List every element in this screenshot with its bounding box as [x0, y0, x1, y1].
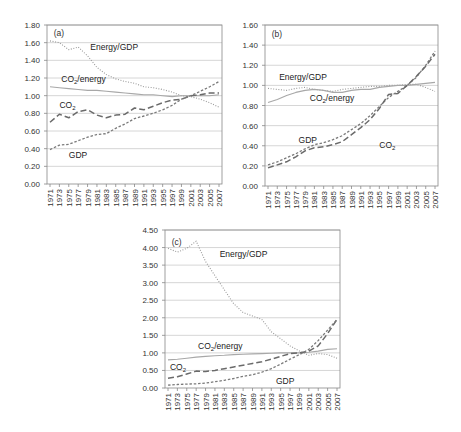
x-tick-label: 1981: [310, 190, 319, 208]
y-tick-label: 0.00: [142, 384, 158, 393]
y-tick-label: 0.20: [242, 162, 258, 171]
co2-energy-label: CO2/energy: [310, 93, 355, 104]
x-tick-label: 2003: [314, 392, 323, 410]
series-annotations: (c)Energy/GDPCO2/energyCO2GDP: [170, 237, 295, 386]
x-tick-label: 1977: [192, 392, 201, 410]
y-tick-label: 1.60: [24, 39, 40, 48]
x-tick-label: 1999: [295, 392, 304, 410]
x-tick-label: 1989: [131, 188, 140, 206]
gdp-line: [50, 82, 219, 150]
y-tick-label: 2.50: [142, 296, 158, 305]
x-tick-label: 1973: [273, 190, 282, 208]
gdp-label: GDP: [69, 150, 88, 160]
y-tick-label: 2.00: [142, 314, 158, 323]
x-tick-label: 1987: [121, 188, 130, 206]
x-tick-label: 1995: [159, 188, 168, 206]
x-tick-label: 2007: [333, 392, 342, 410]
x-tick-label: 1971: [164, 392, 173, 410]
x-tick-label: 1983: [320, 190, 329, 208]
x-tick-label: 1971: [264, 190, 273, 208]
chart-panel-a: 0.000.200.400.600.801.001.201.401.601.80…: [24, 21, 224, 207]
x-tick-label: 1995: [375, 190, 384, 208]
x-tick-label: 1971: [46, 188, 55, 206]
x-tick-label: 1987: [239, 392, 248, 410]
x-axis: 1971197319751977197919811983198519871989…: [164, 388, 342, 411]
panel-label: (c): [172, 237, 182, 247]
x-tick-label: 2003: [412, 190, 421, 208]
chart-panel-b: 0.000.200.400.600.801.001.201.401.601971…: [242, 21, 440, 209]
y-tick-label: 0.50: [142, 366, 158, 375]
panel-label: (b): [272, 29, 283, 39]
panel-label: (a): [54, 28, 65, 38]
y-tick-label: 0.40: [24, 145, 40, 154]
y-tick-label: 0.40: [242, 142, 258, 151]
x-tick-label: 1997: [168, 188, 177, 206]
y-tick-label: 4.00: [142, 244, 158, 253]
y-tick-label: 1.00: [24, 92, 40, 101]
x-tick-label: 1997: [385, 190, 394, 208]
x-tick-label: 1993: [149, 188, 158, 206]
gdp-label: GDP: [299, 135, 318, 145]
x-tick-label: 1977: [74, 188, 83, 206]
x-tick-label: 2003: [196, 188, 205, 206]
gridlines: 0.000.200.400.600.801.001.201.401.60: [242, 21, 438, 191]
x-tick-label: 2007: [215, 188, 224, 206]
co2-label: CO2: [59, 100, 76, 111]
x-tick-label: 1981: [211, 392, 220, 410]
y-tick-label: 1.40: [242, 41, 258, 50]
x-tick-label: 1989: [249, 392, 258, 410]
x-tick-label: 1973: [55, 188, 64, 206]
co2-label: CO2: [170, 362, 187, 373]
x-tick-label: 1999: [177, 188, 186, 206]
x-axis: 1971197319751977197919811983198519871989…: [46, 184, 224, 207]
x-tick-label: 2005: [206, 188, 215, 206]
x-tick-label: 1997: [286, 392, 295, 410]
co2-energy-label: CO2/energy: [61, 74, 106, 85]
x-tick-label: 1973: [173, 392, 182, 410]
energy-gdp-label: Energy/GDP: [220, 249, 268, 259]
x-tick-label: 1991: [258, 392, 267, 410]
x-tick-label: 1995: [277, 392, 286, 410]
y-tick-label: 1.40: [24, 56, 40, 65]
x-tick-label: 1993: [366, 190, 375, 208]
y-tick-label: 0.00: [24, 180, 40, 189]
y-tick-label: 4.50: [142, 226, 158, 235]
x-tick-label: 1987: [338, 190, 347, 208]
y-tick-label: 0.60: [242, 122, 258, 131]
x-tick-label: 1985: [230, 392, 239, 410]
co2-line: [168, 320, 337, 379]
co2-label: CO2: [379, 140, 396, 151]
x-tick-label: 1983: [220, 392, 229, 410]
y-tick-label: 3.50: [142, 261, 158, 270]
x-tick-label: 1991: [140, 188, 149, 206]
y-tick-label: 0.00: [242, 182, 258, 191]
y-tick-label: 0.80: [242, 102, 258, 111]
energy-gdp-label: Energy/GDP: [90, 42, 138, 52]
x-tick-label: 2007: [431, 190, 440, 208]
y-tick-label: 0.60: [24, 127, 40, 136]
x-tick-label: 2001: [403, 190, 412, 208]
y-tick-label: 1.00: [142, 349, 158, 358]
y-tick-label: 1.00: [242, 81, 258, 90]
y-tick-label: 0.80: [24, 109, 40, 118]
x-tick-label: 2001: [187, 188, 196, 206]
x-tick-label: 1975: [183, 392, 192, 410]
chart-figure: 0.000.200.400.600.801.001.201.401.601.80…: [0, 0, 461, 432]
x-tick-label: 1979: [84, 188, 93, 206]
y-tick-label: 0.20: [24, 162, 40, 171]
gdp-label: GDP: [276, 376, 295, 386]
x-tick-label: 1985: [112, 188, 121, 206]
x-tick-label: 2001: [305, 392, 314, 410]
x-tick-label: 2005: [422, 190, 431, 208]
gdp-line: [268, 51, 435, 165]
x-tick-label: 1981: [93, 188, 102, 206]
x-tick-label: 1975: [65, 188, 74, 206]
x-tick-label: 1983: [102, 188, 111, 206]
series-annotations: (b)Energy/GDPCO2/energyCO2GDP: [272, 29, 396, 151]
co2-energy-label: CO2/energy: [198, 341, 243, 352]
y-tick-label: 1.80: [24, 21, 40, 30]
x-tick-label: 1991: [357, 190, 366, 208]
x-tick-label: 1985: [329, 190, 338, 208]
x-tick-label: 1993: [267, 392, 276, 410]
chart-panel-c: 0.000.501.001.502.002.503.003.504.004.50…: [142, 226, 342, 411]
